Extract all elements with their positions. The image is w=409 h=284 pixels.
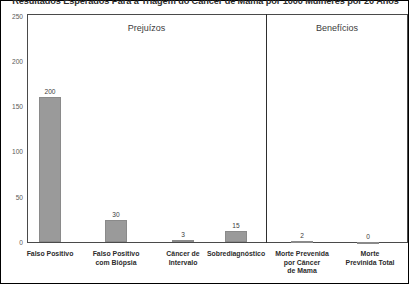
category-label-line2: com Biópsia [87,259,145,268]
category-label-falso-positivo-biopsia: Falso Positivo com Biópsia [87,250,145,267]
panel-divider [266,14,267,243]
category-label-line1: Falso Positivo [20,250,80,259]
category-label-line1: Câncer de [154,250,212,259]
bar-value-cancer-intervalo: 3 [163,231,203,238]
category-label-line1: Morte Prevenida [271,250,333,259]
category-label-sobrediagnostico: Sobrediagnóstico [206,250,266,259]
y-axis-tick-100: 100 [1,148,23,155]
bar-value-falso-positivo: 200 [30,88,70,95]
panel-header-beneficios: Benefícios [266,23,408,33]
category-label-falso-positivo: Falso Positivo [20,250,80,259]
bar-falso-positivo [39,97,61,242]
bar-falso-positivo-biopsia [105,220,127,242]
bar-morte-prevenida-total [357,242,379,244]
bar-cancer-intervalo [172,240,194,242]
plot-area [27,14,408,243]
bar-value-morte-prevenida-total: 0 [348,233,388,240]
category-label-line1: Falso Positivo [87,250,145,259]
category-label-morte-prevenida-total: Morte Previnida Total [339,250,401,267]
bar-sobrediagnostico [225,231,247,242]
bar-morte-prevenida-cancer [291,241,313,243]
bar-value-falso-positivo-biopsia: 30 [96,211,136,218]
category-label-line2: Previnida Total [339,259,401,268]
y-axis-tick-200: 200 [1,58,23,65]
bar-value-sobrediagnostico: 15 [216,222,256,229]
category-label-cancer-intervalo: Câncer de Intervalo [154,250,212,267]
y-axis-tick-0: 0 [1,239,23,246]
category-label-line3: de Mama [271,267,333,276]
bar-value-morte-prevenida-cancer: 2 [282,232,322,239]
y-axis-tick-150: 150 [1,103,23,110]
category-label-line2: Intervalo [154,259,212,268]
category-label-line2: por Câncer [271,259,333,268]
category-label-line1: Sobrediagnóstico [206,250,266,259]
chart-figure: Resultados Esperados Para a Triagem do C… [0,0,409,284]
y-axis-tick-250: 250 [1,13,23,20]
category-label-line1: Morte [339,250,401,259]
category-label-morte-prevenida-cancer: Morte Prevenida por Câncer de Mama [271,250,333,276]
panel-header-prejuizos: Prejuízos [27,23,266,33]
y-axis-tick-50: 50 [1,194,23,201]
chart-title: Resultados Esperados Para a Triagem do C… [1,0,409,6]
